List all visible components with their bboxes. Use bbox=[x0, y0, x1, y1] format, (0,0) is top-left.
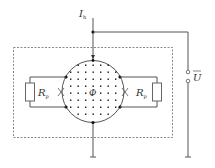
voltage-label: U bbox=[193, 72, 202, 83]
resistor-right bbox=[153, 83, 162, 101]
junction-dot bbox=[92, 59, 95, 62]
current-arrow-icon bbox=[91, 55, 95, 59]
left-resistor-circuit bbox=[26, 77, 67, 107]
contact-x-left-icon bbox=[58, 88, 64, 96]
resistor-left-label: Rp bbox=[37, 87, 49, 100]
terminal-upper bbox=[186, 70, 190, 74]
current-label: Ih bbox=[78, 8, 87, 20]
contact-x-right-icon bbox=[122, 88, 128, 96]
terminal-lower bbox=[186, 79, 190, 83]
resistor-right-label: Rp bbox=[135, 87, 147, 100]
junction-dot bbox=[91, 121, 94, 124]
resistor-left bbox=[26, 83, 35, 101]
flux-label: Φ bbox=[89, 88, 96, 98]
hall-sensor-diagram: Ih Φ Rp Rp U bbox=[0, 0, 215, 168]
